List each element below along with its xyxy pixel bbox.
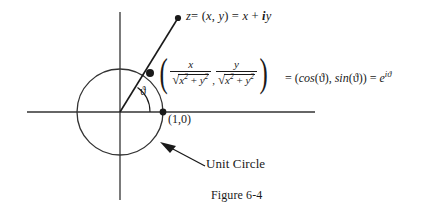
- z-close-equals: ) =: [224, 9, 242, 23]
- figure-caption: Figure 6-4: [211, 189, 262, 201]
- z-y2: y: [266, 9, 272, 23]
- euler-exponent: iϑ: [385, 69, 392, 79]
- z-point-dot: [175, 15, 181, 21]
- first-numerator: x: [185, 59, 196, 71]
- second-radicand-y-exp: 2: [250, 72, 254, 81]
- first-radicand-plus: +: [188, 74, 200, 86]
- cos-function: cos: [299, 71, 315, 85]
- euler-identity-expression: = (cos(ϑ), sin(ϑ)) = eiϑ: [285, 72, 391, 84]
- sin-function: sin: [335, 71, 349, 85]
- first-denominator: √ x2 + y2: [170, 72, 211, 87]
- rhs-equals-open: = (: [285, 71, 299, 85]
- unit-point-dot: [160, 109, 167, 116]
- first-radicand-y-exp: 2: [205, 72, 209, 81]
- circle-point-dot: [146, 69, 154, 77]
- z-equals-open: = (: [191, 9, 206, 23]
- second-fraction: y √ x2 + y2: [216, 59, 257, 87]
- second-radical: √ x2 + y2: [218, 73, 255, 87]
- theta-angle-label: ϑ: [140, 85, 146, 97]
- close-paren: ): [260, 57, 268, 88]
- unit-circle-leader-line: [171, 148, 205, 166]
- second-denominator: √ x2 + y2: [216, 72, 257, 87]
- normalized-coordinates-expression: ( x √ x2 + y2 , y √ x2 + y2 ): [158, 57, 269, 88]
- open-paren: (: [160, 57, 168, 88]
- unit-point-label: (1,0): [168, 113, 191, 125]
- radical-sign-icon: √: [218, 73, 225, 86]
- rhs-close-equals: ) =: [363, 71, 380, 85]
- second-radicand-plus: +: [234, 74, 246, 86]
- first-radical: √ x2 + y2: [172, 73, 209, 87]
- first-fraction: x √ x2 + y2: [170, 59, 211, 87]
- second-numerator: y: [231, 59, 242, 71]
- cos-argument: (ϑ): [315, 71, 329, 85]
- first-radicand: x2 + y2: [178, 74, 209, 87]
- coordinate-comma: ,: [212, 75, 215, 88]
- z-plus: +: [248, 9, 262, 23]
- radical-sign-icon: √: [172, 73, 179, 86]
- second-radicand: x2 + y2: [224, 74, 255, 87]
- z-definition-label: z= (x, y) = x + iy: [186, 10, 272, 23]
- figure-container: z= (x, y) = x + iy ( x √ x2 + y2 , y √ x…: [0, 0, 448, 214]
- complex-plane-diagram: [0, 0, 448, 214]
- unit-circle-annotation: Unit Circle: [206, 157, 265, 170]
- sin-argument: (ϑ): [349, 71, 363, 85]
- unit-circle-arrowhead: [160, 142, 176, 153]
